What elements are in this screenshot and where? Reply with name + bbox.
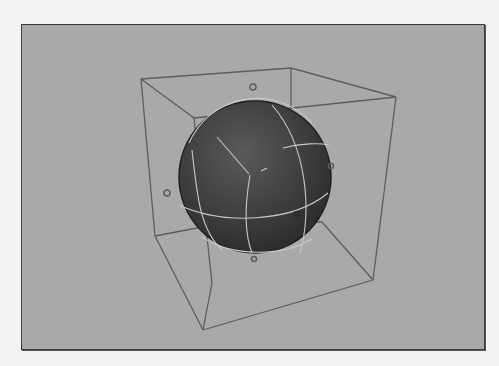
control-point-right[interactable] <box>329 164 334 169</box>
sphere-object[interactable] <box>179 98 331 253</box>
page: 3D Viewport <box>0 0 499 366</box>
control-point-left[interactable] <box>164 190 170 196</box>
control-point-bottom[interactable] <box>252 257 257 262</box>
scene-canvas[interactable] <box>22 25 484 349</box>
control-point-top[interactable] <box>250 84 256 90</box>
3d-viewport[interactable]: 3D Viewport <box>21 24 485 350</box>
